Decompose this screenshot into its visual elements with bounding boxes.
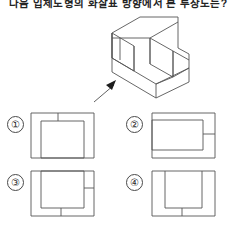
option-4-marker: ④ <box>126 174 143 191</box>
option-1-drawing <box>30 112 100 162</box>
option-3-drawing <box>30 170 100 220</box>
option-4-drawing <box>151 170 221 220</box>
option-2[interactable]: ② <box>121 108 239 169</box>
options-grid: ① ② ③ <box>0 106 239 228</box>
option-2-marker: ② <box>126 116 143 133</box>
option-4[interactable]: ④ <box>121 166 239 227</box>
view-direction-arrow <box>92 76 144 106</box>
arrow-icon <box>92 76 144 106</box>
option-3[interactable]: ③ <box>2 166 121 227</box>
option-2-drawing <box>151 112 221 162</box>
option-1-marker: ① <box>7 116 24 133</box>
option-1[interactable]: ① <box>2 108 121 169</box>
option-3-marker: ③ <box>7 174 24 191</box>
